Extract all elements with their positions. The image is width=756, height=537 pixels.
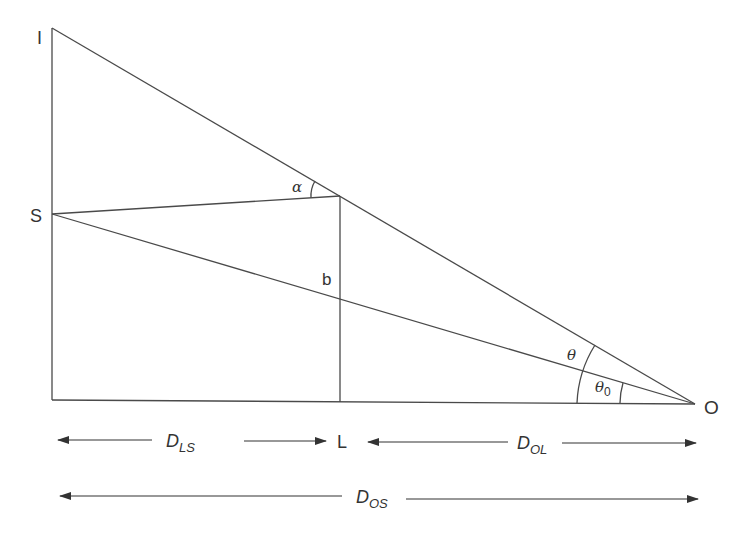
observer-label: O: [704, 397, 719, 418]
source-to-lens-ray: [52, 196, 340, 214]
optical-axis-line: [52, 400, 695, 404]
dol-label: DOL: [517, 433, 547, 457]
lensing-diagram: I S b L O α θ θ0 DLS DOL DOS: [0, 0, 756, 537]
theta0-angle-arc: [620, 383, 623, 403]
dos-label: DOS: [356, 487, 388, 511]
source-direction-line: [52, 214, 695, 404]
image-ray-line: [52, 28, 695, 404]
theta-label: θ: [567, 346, 576, 364]
lens-label: L: [337, 432, 347, 452]
image-label: I: [37, 28, 42, 48]
alpha-angle-arc: [311, 181, 315, 198]
source-label: S: [30, 206, 42, 226]
impact-parameter-label: b: [322, 270, 331, 289]
theta0-label: θ0: [595, 378, 611, 399]
dls-label: DLS: [166, 431, 195, 455]
alpha-label: α: [292, 178, 302, 196]
